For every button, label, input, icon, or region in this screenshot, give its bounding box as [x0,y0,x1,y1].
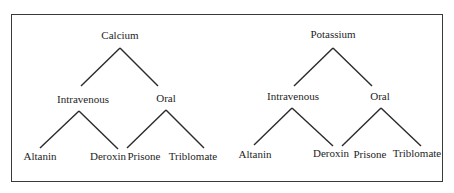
root-node-potassium: Potassium [310,28,356,40]
tree-calcium: Calcium Intravenous Oral Altanin Deroxin… [24,29,218,162]
edge-oral-prisone [127,110,166,148]
leaf-node-prisone: Prisone [354,148,387,160]
edge-intravenous-altanin [40,111,79,148]
leaf-node-prisone: Prisone [128,150,161,162]
edge-potassium-intravenous [294,48,333,86]
edge-potassium-oral [333,48,372,86]
leaf-node-deroxin: Deroxin [313,147,350,159]
edge-intravenous-deroxin [292,108,333,146]
edge-oral-triblomate [381,108,421,146]
edge-oral-triblomate [166,110,204,148]
tree-potassium: Potassium Intravenous Oral Altanin Derox… [239,28,442,160]
edge-intravenous-altanin [254,108,292,145]
leaf-node-altanin: Altanin [24,150,57,162]
leaf-node-triblomate: Triblomate [393,147,442,159]
leaf-node-altanin: Altanin [239,148,272,160]
edge-calcium-oral [120,48,158,86]
root-node-calcium: Calcium [101,29,139,41]
branch-node-intravenous: Intravenous [57,93,109,105]
tree-diagram: Calcium Intravenous Oral Altanin Deroxin… [0,0,454,193]
edge-oral-prisone [342,108,381,146]
leaf-node-deroxin: Deroxin [90,150,127,162]
edge-intravenous-deroxin [79,111,118,149]
leaf-node-triblomate: Triblomate [169,150,218,162]
branch-node-intravenous: Intravenous [267,90,319,102]
branch-node-oral: Oral [370,90,390,102]
branch-node-oral: Oral [156,92,176,104]
edge-calcium-intravenous [81,48,120,86]
